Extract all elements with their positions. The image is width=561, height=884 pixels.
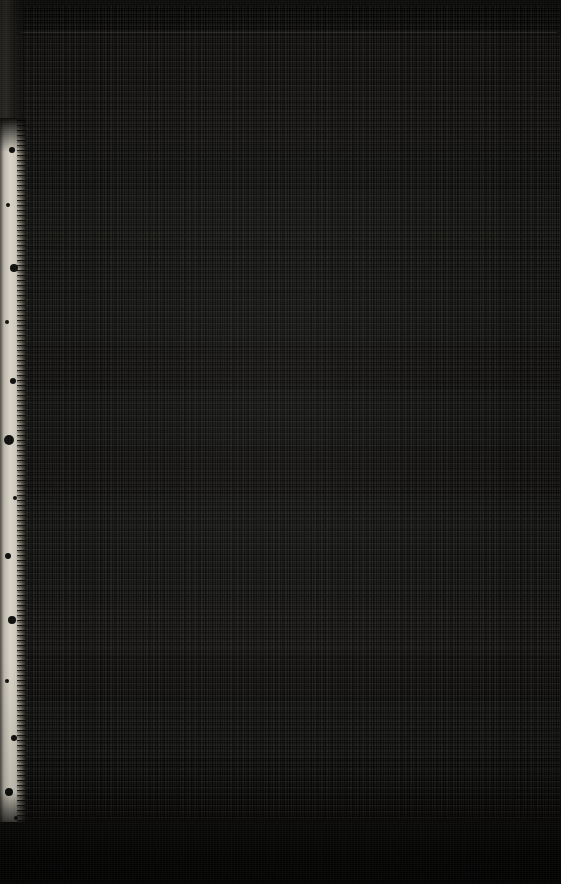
text-band: [16, 294, 561, 346]
text-band: [16, 388, 561, 446]
text-band: [16, 148, 561, 188]
text-band: [16, 700, 561, 758]
edge-speck: [5, 320, 9, 324]
edge-speck: [5, 553, 11, 559]
edge-speck: [13, 496, 17, 500]
edge-speck: [14, 816, 18, 820]
text-band: [16, 84, 561, 146]
edge-speck: [4, 435, 14, 445]
text-band: [16, 798, 561, 822]
bottom-margin: [0, 822, 561, 884]
edge-speck: [6, 203, 10, 207]
edge-speck: [9, 147, 15, 153]
text-band: [16, 494, 561, 554]
edge-speck: [5, 679, 9, 683]
scanned-page-image: Severely underexposed photographic scan …: [0, 0, 561, 884]
edge-feather: [17, 118, 26, 832]
edge-speck: [11, 735, 17, 741]
text-band: [16, 248, 561, 292]
text-band: [16, 600, 561, 656]
text-band: [16, 658, 561, 698]
text-band: [16, 448, 561, 492]
edge-speck: [5, 788, 13, 796]
text-band: [16, 190, 561, 246]
edge-speck: [10, 378, 16, 384]
text-band: [16, 348, 561, 386]
text-band: [16, 36, 561, 82]
text-band: [16, 556, 561, 598]
edge-speck: [10, 264, 18, 272]
text-band: [16, 760, 561, 796]
edge-speck: [8, 616, 16, 624]
page-edge-upper-dim: [0, 0, 24, 120]
page-edge-strip: [0, 118, 26, 832]
header-rule: [20, 32, 557, 33]
